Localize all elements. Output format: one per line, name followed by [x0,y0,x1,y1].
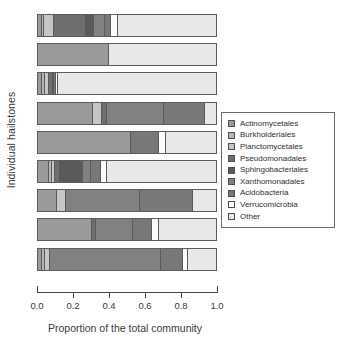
x-axis-tick-label: 0.2 [66,300,79,311]
legend-item: Actinomycetales [227,118,330,130]
bar-segment [66,190,141,211]
legend-item: Sphingobacteriales [227,164,330,176]
bar-segment [159,132,166,153]
x-axis-tick [217,286,218,293]
legend-item: Verrucomicrobia [227,199,330,211]
legend-item-label: Burkholderiales [240,131,295,139]
bar-segment [60,161,82,182]
bar-segment [193,190,216,211]
legend-item: Xanthomonadales [227,176,330,188]
x-axis-tick-label: 1.0 [210,300,223,311]
bar-segment [50,249,161,270]
bar-9 [37,248,217,271]
bar-segment [44,15,54,36]
bar-segment [58,73,216,94]
bar-6 [37,160,217,183]
bar-segment [57,190,66,211]
bar-segment [38,44,109,65]
bar-segment [94,15,105,36]
bar-segment [152,219,159,240]
y-axis-title-text: Individual hailstones [5,92,17,189]
stacked-bar-chart: Individual hailstones Proportion of the … [0,0,340,345]
bar-segment [133,219,152,240]
legend-item-label: Pseudomonadales [240,155,306,163]
legend-swatch-icon [228,132,235,139]
legend: ActinomycetalesBurkholderialesPlanctomyc… [221,112,335,228]
bar-segment [109,44,216,65]
legend-item-label: Xanthomonadales [240,178,305,186]
bar-segment [164,103,205,124]
bar-2 [37,43,217,66]
legend-item: Acidobacteria [227,188,330,200]
legend-swatch-icon [228,120,235,127]
bar-5 [37,131,217,154]
bar-segment [38,132,131,153]
bar-segment [166,132,216,153]
bar-segment [107,161,216,182]
y-axis-title: Individual hailstones [2,0,20,280]
legend-item-label: Actinomycetales [240,120,298,128]
x-axis-tick-label: 0.4 [102,300,115,311]
x-axis-line [37,292,217,293]
legend-swatch-icon [228,213,235,220]
legend-swatch-icon [228,190,235,197]
bar-segment [140,190,193,211]
bar-segment [188,249,216,270]
bar-segment [38,103,93,124]
legend-swatch-icon [228,167,235,174]
bar-8 [37,218,217,241]
x-axis-title: Proportion of the total community [0,322,250,334]
bar-segment [38,190,57,211]
bar-segment [93,103,102,124]
legend-swatch-icon [228,143,235,150]
legend-item: Pseudomonadales [227,153,330,165]
bar-segment [86,15,95,36]
bar-1 [37,14,217,37]
bar-segment [131,132,159,153]
legend-swatch-icon [228,155,235,162]
x-axis-tick [37,286,38,293]
x-axis-tick-label: 0.8 [174,300,187,311]
bar-4 [37,102,217,125]
x-axis-tick-label: 0.0 [30,300,43,311]
legend-swatch-icon [228,201,235,208]
bar-segment [205,103,216,124]
legend-item-label: Verrucomicrobia [240,201,298,209]
bar-segment [118,15,216,36]
bar-segment [38,161,49,182]
bar-segment [38,219,92,240]
legend-swatch-icon [228,178,235,185]
bar-segment [91,161,102,182]
plot-area [37,14,217,284]
x-axis-tick-label: 0.6 [138,300,151,311]
x-axis-tick [145,292,146,298]
legend-item-label: Planctomycetales [240,143,303,151]
bar-segment [54,15,86,36]
legend-item: Other [227,211,330,223]
legend-item-label: Other [240,213,260,221]
x-axis-tick [109,292,110,298]
legend-item-label: Acidobacteria [240,189,288,197]
legend-item: Burkholderiales [227,130,330,142]
bar-7 [37,189,217,212]
bar-segment [159,219,216,240]
bar-segment [161,249,183,270]
bar-segment [107,103,164,124]
bar-segment [96,219,133,240]
bar-segment [83,161,91,182]
legend-item: Planctomycetales [227,141,330,153]
x-axis-tick [181,292,182,298]
bar-3 [37,72,217,95]
x-axis-tick [73,292,74,298]
legend-item-label: Sphingobacteriales [240,166,308,174]
